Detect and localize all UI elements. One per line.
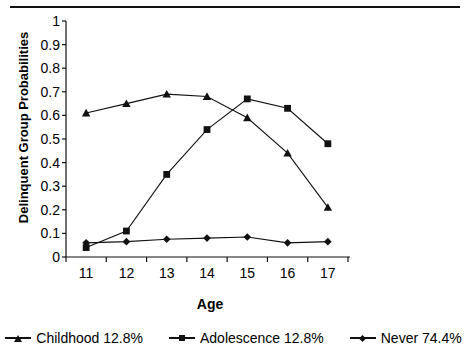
data-point-marker — [123, 228, 130, 235]
series-square — [83, 95, 332, 250]
triangle-icon — [14, 335, 22, 342]
legend-label: Adolescence 12.8% — [200, 330, 324, 346]
legend-item[interactable]: Adolescence 12.8% — [169, 330, 324, 346]
data-point-marker — [203, 234, 211, 242]
legend-marker-diamond-icon — [350, 337, 376, 339]
chart-figure: Delinquent Group Probabilities 00.10.20.… — [0, 0, 467, 353]
data-point-marker — [243, 233, 251, 241]
x-tick-label: 16 — [273, 265, 303, 281]
x-tick-label: 14 — [192, 265, 222, 281]
series-diamond — [82, 233, 331, 247]
data-point-marker — [284, 239, 292, 247]
data-point-marker — [244, 95, 251, 102]
data-point-marker — [324, 140, 331, 147]
square-icon — [179, 335, 185, 341]
data-point-marker — [324, 238, 332, 246]
legend-marker-square-icon — [169, 337, 195, 339]
data-point-marker — [163, 236, 171, 244]
legend-label: Never 74.4% — [381, 330, 462, 346]
data-point-marker — [284, 105, 291, 112]
legend-item[interactable]: Never 74.4% — [350, 330, 462, 346]
x-tick-label: 12 — [111, 265, 141, 281]
legend-label: Childhood 12.8% — [36, 330, 143, 346]
x-tick-label: 15 — [232, 265, 262, 281]
data-point-marker — [243, 114, 251, 122]
diamond-icon — [359, 334, 366, 341]
x-tick-label: 13 — [152, 265, 182, 281]
data-point-marker — [123, 238, 131, 246]
legend-item[interactable]: Childhood 12.8% — [5, 330, 143, 346]
data-point-marker — [163, 90, 171, 98]
x-axis-title: Age — [0, 296, 420, 312]
data-point-marker — [163, 171, 170, 178]
x-tick-label: 17 — [313, 265, 343, 281]
chart-legend: Childhood 12.8%Adolescence 12.8%Never 74… — [0, 330, 467, 346]
series-triangle — [82, 90, 332, 211]
x-tick-label: 11 — [71, 265, 101, 281]
legend-marker-triangle-icon — [5, 337, 31, 339]
data-point-marker — [204, 126, 211, 133]
